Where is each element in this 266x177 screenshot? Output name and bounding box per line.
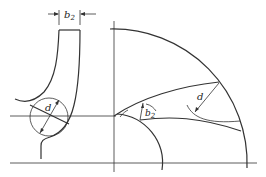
inner-arc [117,114,163,170]
d-arrow-head-bottom [40,128,44,133]
plan-view: d b2 [110,29,247,170]
b2-label-top: b2 [64,9,75,22]
d-arrow-head-top [55,100,59,105]
hub-profile [41,30,80,159]
b2-arrow-right-head [80,12,85,16]
d-label-left: d [45,102,51,113]
meridional-section: b2 d [15,9,96,159]
b2-label-right: b2 [145,108,156,120]
shroud-profile [15,30,59,101]
d-label-right: d [197,91,203,102]
impeller-diagram: b2 d d [0,0,266,177]
b2-arrow-left-head [54,12,59,16]
outer-arc [110,29,247,168]
